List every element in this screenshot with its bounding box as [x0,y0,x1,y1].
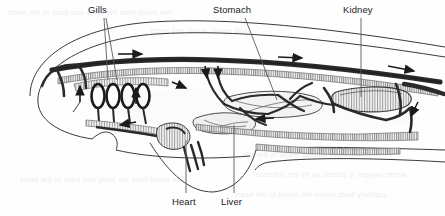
arrow-caudal-return [411,102,418,116]
arrow-efferent-branch [172,82,186,88]
label-gills: Gills [88,5,107,15]
diagram-canvas: the blood from the body and back to the … [0,0,445,216]
label-heart: Heart [172,197,196,207]
fish-anatomy-svg [0,0,445,216]
arrow-gill-ascending-tail [73,102,80,112]
label-stomach: Stomach [213,5,251,15]
arrow-dorsal-posterior [278,57,302,58]
label-liver: Liver [221,197,242,207]
arrow-intestinal-left [256,118,274,119]
label-kidney: Kidney [343,5,373,15]
arrow-caudal-dorsal [388,66,414,71]
